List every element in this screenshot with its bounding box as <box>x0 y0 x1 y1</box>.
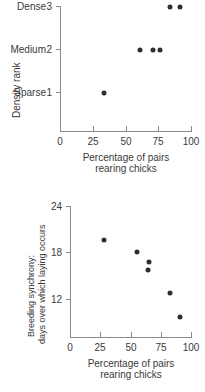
breeding-synchrony-axis-title-line1: Breeding synchrony: <box>26 255 37 337</box>
data-point <box>147 260 152 265</box>
x-ticklabel-25: 25 <box>94 343 105 353</box>
x-tick-100 <box>191 126 192 132</box>
breeding-synchrony-axis-title-line2: days over which laying occurs <box>37 224 48 344</box>
data-point <box>135 250 140 255</box>
x-ticklabel-50: 50 <box>120 137 131 147</box>
x-tick-0 <box>60 126 61 132</box>
y-category-medium: Medium <box>0 45 46 55</box>
y-category-sparse: Sparse <box>0 88 46 98</box>
breeding-synchrony-panel: Breeding synchrony: days over which layi… <box>0 196 205 392</box>
x-tick-75 <box>161 332 162 338</box>
y-tick-3 <box>56 6 61 7</box>
y-ticklabel-18: 18 <box>40 248 62 258</box>
y-ticklabel-24: 24 <box>40 202 62 212</box>
x-ticklabel-100: 100 <box>183 137 200 147</box>
x-axis-title-line2: rearing chicks <box>52 163 200 175</box>
y-tick-2 <box>56 49 61 50</box>
y-tick-18 <box>66 252 71 253</box>
x-axis-title-line2: rearing chicks <box>57 369 205 381</box>
x-tick-25 <box>93 126 94 132</box>
cropped-text-edge <box>0 388 205 392</box>
x-tick-50 <box>131 332 132 338</box>
y-tick-12 <box>66 299 71 300</box>
y-axis-line <box>70 206 71 338</box>
density-rank-panel: Density rank 3 2 1 Dense Medium Sparse 0… <box>0 0 205 196</box>
data-point <box>138 48 143 53</box>
x-tick-50 <box>126 126 127 132</box>
x-ticklabel-0: 0 <box>57 137 63 147</box>
x-tick-100 <box>191 332 192 338</box>
data-point <box>168 291 173 296</box>
y-category-dense: Dense <box>0 2 46 12</box>
data-point <box>102 238 107 243</box>
data-point <box>178 5 183 10</box>
x-ticklabel-25: 25 <box>87 137 98 147</box>
data-point <box>146 268 151 273</box>
x-ticklabel-75: 75 <box>152 137 163 147</box>
y-tick-1 <box>56 92 61 93</box>
y-axis-line <box>60 6 61 132</box>
x-ticklabel-75: 75 <box>155 343 166 353</box>
y-tick-24 <box>66 206 71 207</box>
y-ticklabel-12: 12 <box>40 295 62 305</box>
x-ticklabel-0: 0 <box>67 343 73 353</box>
x-ticklabel-50: 50 <box>125 343 136 353</box>
data-point <box>178 315 183 320</box>
x-ticklabel-100: 100 <box>183 343 200 353</box>
data-point <box>158 48 163 53</box>
x-tick-75 <box>158 126 159 132</box>
data-point <box>168 5 173 10</box>
x-tick-0 <box>70 332 71 338</box>
data-point <box>102 91 107 96</box>
x-tick-25 <box>100 332 101 338</box>
data-point <box>151 48 156 53</box>
x-axis-title-line1: Percentage of pairs <box>52 152 200 164</box>
x-axis-title-line1: Percentage of pairs <box>57 358 205 370</box>
